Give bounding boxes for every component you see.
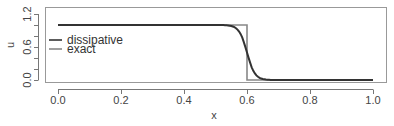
- x-axis-label: x: [211, 109, 217, 121]
- y-tick-label: 1.2: [21, 6, 33, 21]
- y-axis-label: u: [4, 42, 16, 48]
- y-axis: 0.00.61.2: [21, 6, 39, 87]
- legend: dissipativeexact: [49, 33, 123, 56]
- x-tick-label: 0.0: [50, 94, 65, 106]
- line-chart: 0.00.61.2 0.00.20.40.60.81.0 dissipative…: [0, 0, 394, 126]
- x-tick-label: 0.4: [176, 94, 191, 106]
- x-tick-label: 0.6: [239, 94, 254, 106]
- y-tick-label: 0.6: [21, 39, 33, 54]
- legend-label: exact: [67, 42, 96, 56]
- y-tick-label: 0.0: [21, 72, 33, 87]
- x-tick-label: 1.0: [365, 94, 380, 106]
- x-axis: 0.00.20.40.60.81.0: [50, 90, 380, 107]
- x-tick-label: 0.2: [113, 94, 128, 106]
- x-tick-label: 0.8: [302, 94, 317, 106]
